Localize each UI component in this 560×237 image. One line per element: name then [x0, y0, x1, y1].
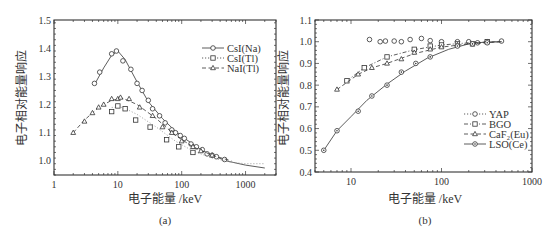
series-line	[112, 107, 265, 163]
x-tick-label: 1	[52, 179, 57, 190]
x-tick-label: 1000	[522, 176, 542, 187]
data-point-marker	[123, 107, 127, 111]
data-point-marker	[121, 59, 126, 64]
data-point-marker	[96, 105, 101, 109]
data-point-marker	[109, 96, 114, 100]
data-point-marker	[116, 104, 120, 108]
data-point-marker	[140, 88, 145, 93]
y-tick-label: 1.1	[300, 15, 313, 26]
data-point-marker	[499, 39, 504, 44]
y-axis-label-a: 电子相对能量响应	[14, 50, 29, 146]
x-tick-label: 100	[174, 179, 189, 190]
data-point-marker	[345, 79, 349, 83]
chart-canvas: 11010010001.01.11.21.31.41.5CsI(Na)CsI(T…	[0, 0, 560, 237]
data-point-marker	[109, 109, 113, 113]
x-tick-label: 100	[434, 176, 449, 187]
y-tick-label: 1.0	[300, 36, 313, 47]
figure: 11010010001.01.11.21.31.41.5CsI(Na)CsI(T…	[0, 0, 560, 237]
data-point-marker	[82, 119, 87, 123]
data-point-marker	[211, 56, 215, 60]
data-point-marker	[378, 39, 383, 44]
y-tick-label: 0.6	[300, 123, 313, 134]
data-point-marker	[129, 67, 134, 72]
data-point-marker	[164, 138, 168, 142]
y-tick-label: 0.9	[300, 58, 313, 69]
y-tick-label: 0.8	[300, 80, 313, 91]
data-point-marker	[419, 36, 424, 41]
data-point-marker	[367, 37, 372, 42]
x-tick-label: 10	[113, 179, 123, 190]
y-tick-label: 1.4	[39, 43, 52, 54]
data-point-marker	[146, 98, 151, 103]
data-point-marker	[150, 113, 155, 117]
y-tick-label: 1.3	[39, 71, 52, 82]
data-point-marker	[211, 65, 216, 69]
chart-panel-b: 1010010000.40.50.60.70.80.91.01.1YAPBGOC…	[300, 15, 543, 188]
x-axis-label-b: 电子能量 /keV	[388, 192, 463, 206]
data-point-marker	[392, 39, 397, 44]
y-tick-label: 1.2	[39, 99, 52, 110]
x-tick-label: 1000	[236, 179, 256, 190]
data-point-marker	[177, 145, 181, 149]
series-line	[347, 42, 502, 81]
data-point-marker	[383, 39, 388, 44]
data-point-marker	[473, 112, 478, 117]
data-point-marker	[473, 122, 477, 126]
data-point-marker	[133, 118, 137, 122]
data-point-marker	[428, 38, 433, 43]
data-point-marker	[118, 95, 123, 99]
x-tick-label: 10	[346, 176, 356, 187]
data-point-marker	[97, 70, 102, 75]
data-point-marker	[135, 81, 140, 86]
panel-label-b: (b)	[419, 214, 432, 227]
legend-entry: NaI(Tl)	[227, 63, 260, 75]
y-tick-label: 0.7	[300, 101, 313, 112]
data-point-marker	[385, 55, 389, 59]
data-point-marker	[362, 66, 366, 70]
legend-entry: LSO(Ce)	[489, 139, 528, 151]
y-tick-label: 1.5	[39, 15, 52, 26]
data-point-marker	[408, 37, 413, 42]
data-point-marker	[211, 46, 216, 51]
y-tick-label: 1.1	[39, 127, 52, 138]
data-point-marker	[109, 52, 114, 57]
data-point-marker	[399, 39, 404, 44]
x-axis-label-a: 电子能量 /keV	[128, 192, 203, 206]
data-point-marker	[335, 87, 340, 91]
data-point-marker	[90, 110, 95, 114]
y-tick-label: 0.5	[300, 145, 313, 156]
data-point-marker	[191, 150, 195, 154]
data-point-marker	[157, 114, 162, 119]
data-point-marker	[148, 125, 152, 129]
data-point-marker	[473, 131, 478, 135]
data-point-marker	[92, 81, 97, 86]
data-point-marker	[150, 106, 155, 111]
panel-label-a: (a)	[159, 214, 172, 227]
data-point-marker	[127, 96, 132, 100]
y-axis-label-b: 电子相对能量响应	[276, 50, 291, 146]
y-tick-label: 1.0	[39, 155, 52, 166]
data-point-marker	[101, 102, 106, 106]
chart-panel-a: 11010010001.01.11.21.31.41.5CsI(Na)CsI(T…	[39, 15, 277, 191]
data-point-marker	[114, 49, 119, 54]
y-tick-label: 0.4	[300, 167, 313, 178]
data-point-marker	[399, 56, 404, 60]
